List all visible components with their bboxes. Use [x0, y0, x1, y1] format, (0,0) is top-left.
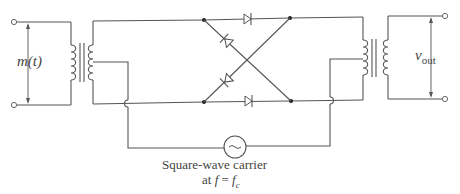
diode-ring: [202, 13, 293, 107]
output-signal-label: vout: [415, 47, 436, 66]
carrier-source: [224, 136, 246, 158]
diode-bottom: [245, 95, 252, 107]
diode-top: [244, 13, 251, 25]
output-transformer: [246, 16, 388, 146]
carrier-caption-line2: at f = fc: [202, 172, 240, 190]
carrier-caption-line1: Square-wave carrier: [162, 157, 267, 173]
top-rail: [93, 17, 363, 21]
input-signal-label: m(t): [17, 53, 42, 70]
bottom-rail: [93, 100, 363, 104]
input-transformer: [71, 21, 224, 148]
